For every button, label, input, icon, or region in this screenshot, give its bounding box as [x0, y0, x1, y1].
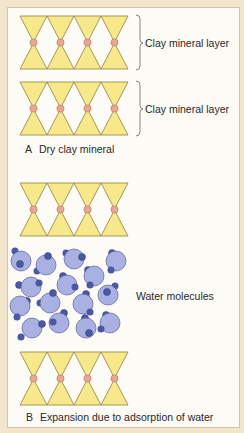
water-molecule: [106, 250, 126, 274]
caption-b-text: Expansion due to adsorption of water: [40, 411, 213, 423]
caption-b-letter: B: [26, 411, 40, 423]
clay-diagram-art: [0, 0, 244, 433]
water-molecule: [16, 277, 43, 297]
water-molecule: [63, 249, 86, 269]
clay-mineral-layer-3: [20, 183, 128, 236]
caption-a-text: Dry clay mineral: [39, 143, 114, 155]
caption-a: ADry clay mineral: [25, 143, 114, 155]
layer-label-1: Clay mineral layer: [145, 37, 229, 49]
water-molecule: [11, 248, 31, 272]
water-molecule: [18, 318, 46, 341]
clay-mineral-layer-4: [20, 352, 128, 405]
water-molecule: [34, 253, 57, 276]
water-molecule: [73, 291, 94, 316]
water-molecule: [98, 283, 119, 306]
water-molecules-cluster: [10, 248, 126, 341]
clay-mineral-layer-2: [20, 82, 128, 135]
caption-b: BExpansion due to adsorption of water: [26, 411, 213, 423]
bracket-icon: [136, 15, 143, 70]
clay-mineral-layer-1: [20, 16, 128, 69]
water-molecule: [57, 273, 79, 296]
water-molecule: [98, 312, 121, 334]
water-molecule: [10, 296, 31, 321]
caption-a-letter: A: [25, 143, 39, 155]
water-molecule: [84, 266, 104, 289]
bracket-icon: [136, 81, 143, 136]
layer-label-2: Clay mineral layer: [145, 103, 229, 115]
water-molecule: [76, 315, 96, 339]
water-molecules-label: Water molecules: [136, 290, 214, 302]
water-molecule: [37, 290, 61, 314]
